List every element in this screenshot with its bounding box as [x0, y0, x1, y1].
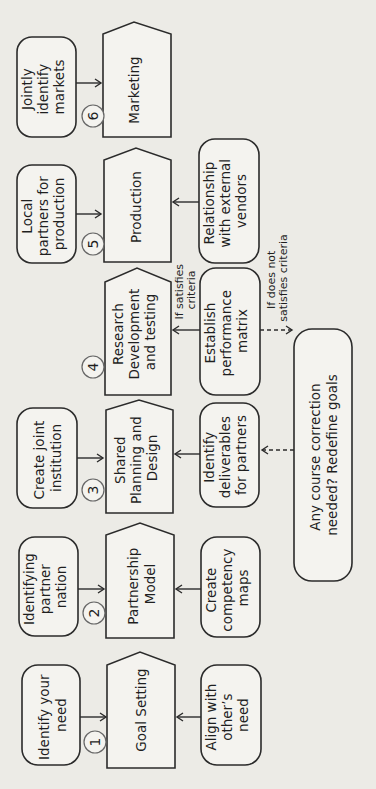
- process-label: Model: [142, 564, 158, 605]
- label: Identifying: [21, 553, 37, 625]
- label: Align with: [203, 684, 219, 751]
- step-1-group: Identify your need Goal Setting 1 Align …: [22, 652, 261, 768]
- process-label: Research: [110, 303, 126, 365]
- label: need: [235, 698, 251, 732]
- step-number: 3: [85, 486, 101, 495]
- label: partners for: [35, 176, 51, 256]
- label: production: [51, 178, 67, 251]
- condition-label-not-satisfies: satisfies criteria: [277, 234, 290, 322]
- svg-text:If satisfies criteria: If satisfies criteria: [173, 260, 198, 319]
- step-number: 5: [85, 240, 101, 249]
- svg-text:If does not satisfies cr: If does not satisfies criteria: [265, 234, 290, 322]
- label: Local: [19, 199, 35, 234]
- label: Create: [203, 568, 219, 613]
- step-number: 6: [85, 111, 101, 120]
- step-5-group: Local partners for production Production…: [17, 139, 259, 263]
- feedback-group: Any course correction needed? Redefine g…: [262, 329, 352, 581]
- process-label: Shared: [112, 436, 128, 484]
- process-label: and testing: [142, 294, 158, 371]
- process-label: Planning and: [128, 416, 144, 504]
- step-number: 4: [85, 362, 101, 371]
- decision-box-course-correction: [294, 329, 352, 581]
- label: markets: [51, 60, 67, 115]
- label: other’s: [219, 694, 235, 741]
- label: matrix: [234, 309, 250, 353]
- label: with external: [217, 159, 233, 247]
- label: maps: [235, 569, 251, 606]
- label: Identify: [201, 432, 217, 483]
- label: institution: [48, 424, 64, 492]
- flowchart: Jointly identify markets Marketing 6 Loc…: [0, 0, 376, 789]
- input-box-create-joint-institution: [17, 408, 77, 508]
- label: Any course correction: [307, 383, 323, 530]
- svg-text:Create joint institution: Create joint institution: [31, 416, 64, 499]
- process-label: Design: [144, 435, 160, 482]
- step-number: 2: [86, 609, 102, 618]
- label: needed? Redefine goals: [324, 374, 340, 536]
- label: need: [53, 698, 69, 732]
- step-number: 1: [87, 738, 103, 747]
- label: for partners: [233, 415, 249, 495]
- process-label: Goal Setting: [133, 668, 149, 751]
- label: Jointly: [19, 68, 35, 111]
- label: identify: [35, 64, 51, 115]
- process-label: Marketing: [126, 56, 142, 123]
- step-2-group: Identifying partner nation Partnership M…: [19, 523, 260, 638]
- process-label: Partnership: [125, 548, 141, 625]
- step-6-group: Jointly identify markets Marketing 6: [17, 22, 171, 137]
- label: partner: [37, 564, 53, 615]
- svg-text:Jointly identify m: Jointly identify markets: [19, 59, 67, 114]
- step-3-group: Create joint institution Shared Planning…: [17, 400, 259, 513]
- process-label: Production: [128, 171, 144, 243]
- label: nation: [53, 566, 69, 609]
- label: Create joint: [31, 421, 47, 500]
- label: Identify your: [36, 674, 52, 760]
- label: deliverables: [217, 416, 233, 498]
- condition-label-satisfies: criteria: [185, 270, 198, 309]
- label: Establish: [202, 303, 218, 364]
- svg-text:Any course correction ne: Any course correction needed? Redefine g…: [307, 374, 340, 536]
- label: competency: [219, 549, 235, 632]
- label: Relationship: [201, 162, 217, 245]
- label: performance: [218, 290, 234, 376]
- process-label: Development: [126, 289, 142, 380]
- label: vendors: [233, 174, 249, 228]
